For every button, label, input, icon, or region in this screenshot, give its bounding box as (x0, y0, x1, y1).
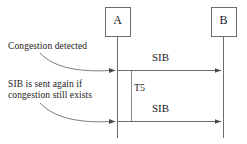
note-line: Congestion detected (8, 41, 87, 52)
note-leader-1-arrowhead (109, 68, 116, 73)
sequence-diagram-canvas: A B SIB SIB T5 Congestion detected SIB i… (0, 0, 247, 144)
note-line: congestion still exists (8, 90, 92, 101)
note-leader-1 (40, 53, 110, 71)
timer-label-t5: T5 (134, 82, 145, 94)
message-label-2: SIB (152, 102, 169, 115)
note-leader-2-arrowhead (109, 119, 116, 124)
note-leader-2 (40, 103, 110, 122)
note-sib-resend: SIB is sent again if congestion still ex… (8, 79, 92, 101)
lifeline-label-a: A (105, 14, 130, 28)
note-congestion-detected: Congestion detected (8, 41, 87, 52)
note-line: SIB is sent again if (8, 79, 92, 90)
lifeline-label-b: B (211, 14, 236, 28)
message-label-1: SIB (152, 51, 169, 64)
